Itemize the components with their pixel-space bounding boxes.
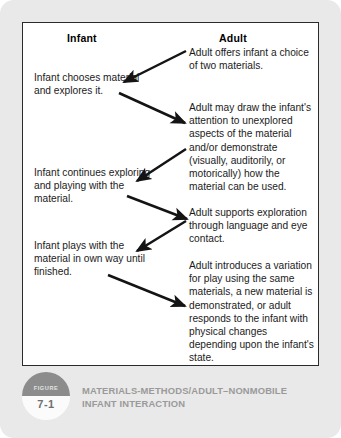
- infant-step-3: Infant plays with the material in own wa…: [34, 239, 156, 279]
- infant-step-2: Infant continues exploring and playing w…: [34, 166, 156, 206]
- figure-caption-text: MATERIALS-METHODS/ADULT–NONMOBILE INFANT…: [82, 384, 322, 410]
- figure-number-badge: FIGURE 7-1: [22, 372, 70, 420]
- figure-caption-row: FIGURE 7-1 MATERIALS-METHODS/ADULT–NONMO…: [22, 372, 322, 428]
- adult-step-3: Adult supports exploration through langu…: [189, 206, 317, 246]
- infant-step-1: Infant chooses material and explores it.: [34, 71, 156, 97]
- badge-top-half: [22, 372, 70, 396]
- badge-figure-label: FIGURE: [22, 385, 70, 391]
- arrow-infant1-to-adult2: [119, 93, 185, 123]
- column-header-adult: Adult: [219, 32, 247, 44]
- adult-step-4: Adult introduces a variation for play us…: [189, 259, 317, 365]
- adult-step-1: Adult offers infant a choice of two mate…: [189, 46, 317, 72]
- figure-card: Infant Adult Infant chooses material and…: [0, 0, 341, 438]
- adult-step-2: Adult may draw the infant's attention to…: [189, 101, 317, 193]
- diagram-frame: Infant Adult Infant chooses material and…: [22, 22, 319, 366]
- column-header-infant: Infant: [67, 32, 97, 44]
- arrow-infant3-to-adult4: [108, 275, 185, 306]
- badge-figure-number: 7-1: [22, 398, 70, 410]
